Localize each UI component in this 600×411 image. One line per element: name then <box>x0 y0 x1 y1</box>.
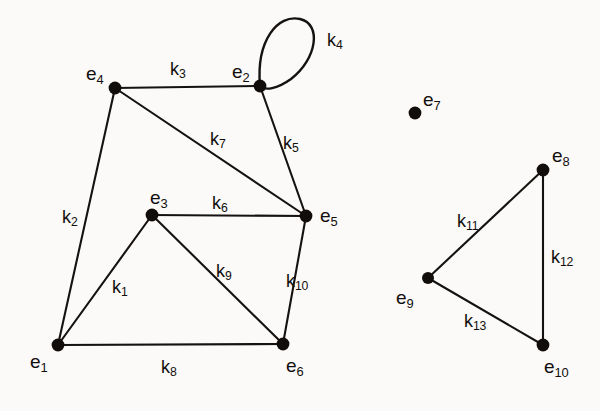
edge-label-k6: k6 <box>212 194 228 215</box>
edge-k4-loop[interactable] <box>260 18 314 88</box>
vertex-e6[interactable] <box>277 338 290 351</box>
edge-k3-line[interactable] <box>115 86 260 88</box>
edge-label-k11: k11 <box>457 212 478 233</box>
node-label-e2: e2 <box>232 62 250 85</box>
edge-label-k2: k2 <box>62 208 78 229</box>
node-label-e3: e3 <box>150 188 168 211</box>
node-label-e4: e4 <box>86 64 104 87</box>
edge-label-k12: k12 <box>551 248 573 269</box>
edge-label-k5: k5 <box>283 134 299 155</box>
edge-k6-line[interactable] <box>152 215 306 216</box>
graph-diagram: e1 e2 e3 e4 e5 e6 e7 e8 e9 e10 k1 k2 k3 … <box>0 0 600 411</box>
vertex-e1[interactable] <box>52 339 65 352</box>
vertex-e7[interactable] <box>409 107 422 120</box>
edge-label-k13: k13 <box>464 312 486 333</box>
vertex-e4[interactable] <box>109 82 122 95</box>
node-label-e8: e8 <box>552 146 570 169</box>
vertex-e5[interactable] <box>300 210 313 223</box>
edge-label-k9: k9 <box>216 262 232 283</box>
vertex-e8[interactable] <box>537 164 550 177</box>
edges-group <box>58 18 543 345</box>
edge-label-k8: k8 <box>161 358 177 379</box>
edge-label-k3: k3 <box>170 60 186 81</box>
graph-canvas <box>0 0 600 411</box>
node-label-e1: e1 <box>30 352 48 375</box>
edge-label-k4: k4 <box>327 31 343 52</box>
node-label-e7: e7 <box>423 90 441 113</box>
edge-k11-line[interactable] <box>428 170 543 278</box>
node-label-e9: e9 <box>396 288 414 311</box>
vertex-e9[interactable] <box>422 272 434 284</box>
node-label-e5: e5 <box>320 206 338 229</box>
vertex-e2[interactable] <box>254 80 267 93</box>
node-label-e10: e10 <box>544 357 568 380</box>
edge-label-k10: k10 <box>286 272 308 293</box>
edge-k7-line[interactable] <box>115 88 306 216</box>
node-label-e6: e6 <box>286 356 304 379</box>
edge-label-k1: k1 <box>112 278 128 299</box>
edge-k8-line[interactable] <box>58 344 283 345</box>
edge-label-k7: k7 <box>210 130 226 151</box>
vertex-e10[interactable] <box>537 339 550 352</box>
